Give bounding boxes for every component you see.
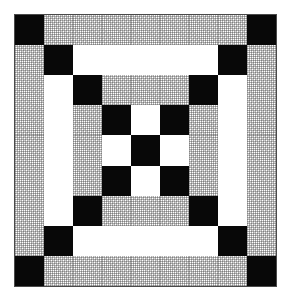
quilt-patch	[218, 166, 247, 196]
quilt-patch	[15, 226, 44, 256]
quilt-patch	[15, 75, 44, 105]
quilt-patch	[44, 45, 73, 75]
quilt-patch	[160, 135, 189, 165]
quilt-patch	[189, 105, 218, 135]
quilt-patch	[44, 256, 73, 286]
quilt-patch	[44, 196, 73, 226]
quilt-patch	[131, 256, 160, 286]
quilt-patch	[160, 256, 189, 286]
quilt-patch	[160, 75, 189, 105]
quilt-patch	[160, 105, 189, 135]
figure-title: Quilt Block Pattern	[0, 21, 1, 22]
quilt-patch	[73, 166, 102, 196]
quilt-patch	[44, 105, 73, 135]
quilt-patch	[15, 135, 44, 165]
quilt-patch	[102, 166, 131, 196]
quilt-patch	[160, 196, 189, 226]
quilt-patch	[102, 15, 131, 45]
quilt-patch	[44, 75, 73, 105]
quilt-patch	[73, 45, 102, 75]
quilt-patch	[73, 226, 102, 256]
quilt-patch	[247, 45, 276, 75]
quilt-patch	[218, 75, 247, 105]
quilt-patch	[189, 135, 218, 165]
quilt-patch	[160, 45, 189, 75]
quilt-patch	[73, 15, 102, 45]
quilt-patch	[15, 196, 44, 226]
quilt-patch	[131, 226, 160, 256]
quilt-patch	[15, 15, 44, 45]
quilt-patch	[73, 256, 102, 286]
quilt-patch	[102, 196, 131, 226]
quilt-patch	[73, 105, 102, 135]
quilt-patch	[131, 105, 160, 135]
quilt-patch	[247, 105, 276, 135]
quilt-patch	[15, 166, 44, 196]
quilt-patch	[44, 226, 73, 256]
quilt-patch	[160, 166, 189, 196]
quilt-patch	[218, 15, 247, 45]
quilt-patch	[44, 135, 73, 165]
quilt-patch	[189, 45, 218, 75]
quilt-patch	[15, 105, 44, 135]
quilt-patch	[218, 226, 247, 256]
quilt-patch	[131, 15, 160, 45]
quilt-patch	[131, 45, 160, 75]
quilt-patch	[102, 135, 131, 165]
quilt-patch	[131, 196, 160, 226]
quilt-patch	[160, 15, 189, 45]
quilt-patch	[218, 256, 247, 286]
quilt-patch	[189, 15, 218, 45]
quilt-patch	[44, 15, 73, 45]
quilt-patch	[247, 196, 276, 226]
quilt-patch	[218, 196, 247, 226]
quilt-patch	[44, 166, 73, 196]
quilt-patch	[102, 105, 131, 135]
figure-canvas: Quilt Block Pattern	[0, 0, 290, 300]
quilt-patch	[189, 196, 218, 226]
quilt-patch	[247, 166, 276, 196]
quilt-patch	[160, 226, 189, 256]
quilt-patch	[73, 196, 102, 226]
quilt-patch	[131, 75, 160, 105]
quilt-patch	[218, 135, 247, 165]
quilt-patch	[15, 256, 44, 286]
quilt-patch	[73, 75, 102, 105]
quilt-patch	[73, 135, 102, 165]
quilt-patch	[131, 135, 160, 165]
quilt-patch	[189, 166, 218, 196]
quilt-patch	[247, 226, 276, 256]
quilt-block	[14, 14, 277, 287]
quilt-patch	[189, 226, 218, 256]
quilt-patch	[247, 135, 276, 165]
quilt-patch	[218, 105, 247, 135]
quilt-patch	[189, 75, 218, 105]
quilt-patch	[102, 45, 131, 75]
quilt-patch	[131, 166, 160, 196]
quilt-patch	[247, 75, 276, 105]
quilt-patch	[218, 45, 247, 75]
quilt-patch	[189, 256, 218, 286]
quilt-patch	[102, 75, 131, 105]
quilt-patch	[247, 15, 276, 45]
quilt-patch	[102, 226, 131, 256]
quilt-patch	[15, 45, 44, 75]
quilt-patch	[102, 256, 131, 286]
quilt-patch	[247, 256, 276, 286]
